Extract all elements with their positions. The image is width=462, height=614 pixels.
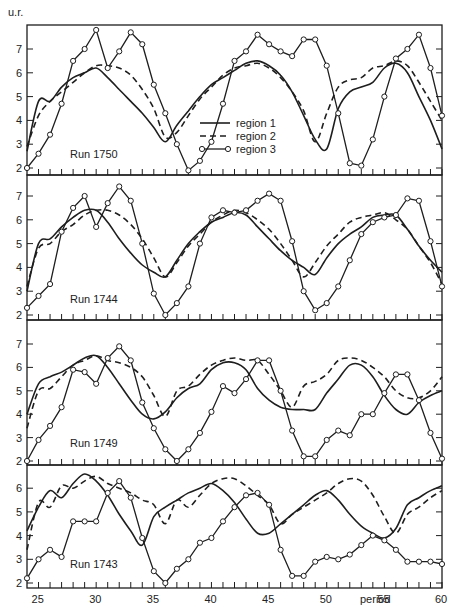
data-point-marker: [290, 573, 295, 578]
chart-panels: 234567Run 1750234567Run 1744234567Run 17…: [16, 25, 445, 589]
data-point-marker: [336, 284, 341, 289]
data-point-marker: [82, 193, 87, 198]
data-point-marker: [347, 161, 352, 166]
data-point-marker: [209, 215, 214, 220]
y-tick-label: 7: [16, 338, 22, 350]
data-point-marker: [301, 454, 306, 459]
data-point-marker: [382, 215, 387, 220]
data-point-marker: [140, 241, 145, 246]
data-point-marker: [59, 101, 64, 106]
data-point-marker: [220, 208, 225, 213]
data-point-marker: [301, 289, 306, 294]
data-point-marker: [220, 519, 225, 524]
data-point-marker: [197, 241, 202, 246]
data-point-marker: [428, 65, 433, 70]
data-point-marker: [36, 437, 41, 442]
run-label: Run 1744: [70, 293, 118, 305]
data-point-marker: [186, 168, 191, 173]
data-point-marker: [163, 111, 168, 116]
data-point-marker: [243, 493, 248, 498]
y-tick-label: 5: [16, 506, 22, 518]
y-tick-label: 2: [16, 455, 22, 467]
y-tick-label: 6: [16, 67, 22, 79]
legend-region-1: region 1: [236, 117, 276, 129]
data-point-marker: [290, 428, 295, 433]
y-unit-label: u.r.: [8, 6, 23, 18]
data-point-marker: [82, 369, 87, 374]
data-point-marker: [416, 559, 421, 564]
y-tick-label: 6: [16, 214, 22, 226]
data-point-marker: [94, 224, 99, 229]
data-point-marker: [243, 49, 248, 54]
data-point-marker: [140, 42, 145, 47]
data-point-marker: [266, 42, 271, 47]
legend-region-2: region 2: [236, 130, 276, 142]
data-point-marker: [59, 405, 64, 410]
data-point-marker: [163, 447, 168, 452]
data-point-marker: [439, 561, 444, 566]
series-region-1: [27, 209, 442, 291]
data-point-marker: [24, 305, 29, 310]
data-point-marker: [47, 547, 52, 552]
data-point-marker: [36, 557, 41, 562]
data-point-marker: [370, 412, 375, 417]
y-tick-label: 2: [16, 577, 22, 589]
y-tick-label: 2: [16, 309, 22, 321]
data-point-marker: [71, 205, 76, 210]
y-tick-label: 2: [16, 162, 22, 174]
data-point-marker: [36, 151, 41, 156]
data-point-marker: [382, 538, 387, 543]
data-point-marker: [174, 566, 179, 571]
data-point-marker: [117, 49, 122, 54]
data-point-marker: [382, 391, 387, 396]
data-point-marker: [47, 281, 52, 286]
data-point-marker: [24, 576, 29, 581]
x-tick-label: 25: [32, 593, 44, 605]
data-point-marker: [174, 301, 179, 306]
data-point-marker: [197, 158, 202, 163]
data-point-marker: [266, 358, 271, 363]
data-point-marker: [59, 229, 64, 234]
data-point-marker: [197, 540, 202, 545]
data-point-marker: [105, 355, 110, 360]
data-point-marker: [163, 580, 168, 585]
data-point-marker: [416, 198, 421, 203]
data-point-marker: [71, 58, 76, 63]
data-point-marker: [174, 142, 179, 147]
x-tick-label: 45: [262, 593, 274, 605]
data-point-marker: [324, 554, 329, 559]
y-tick-label: 3: [16, 138, 22, 150]
data-point-marker: [266, 502, 271, 507]
data-point-marker: [370, 220, 375, 225]
data-point-marker: [94, 27, 99, 32]
data-point-marker: [405, 46, 410, 51]
data-point-marker: [128, 198, 133, 203]
data-point-marker: [278, 547, 283, 552]
legend-region-3: region 3: [236, 143, 276, 155]
data-point-marker: [393, 56, 398, 61]
data-point-marker: [151, 569, 156, 574]
data-point-marker: [105, 201, 110, 206]
data-point-marker: [94, 381, 99, 386]
run-label: Run 1749: [70, 437, 118, 449]
y-tick-label: 5: [16, 91, 22, 103]
y-tick-label: 7: [16, 190, 22, 202]
series-region-1: [27, 355, 442, 419]
x-axis-label: period: [360, 593, 391, 605]
data-point-marker: [393, 372, 398, 377]
data-point-marker: [71, 367, 76, 372]
x-tick-label: 30: [89, 593, 101, 605]
data-point-marker: [47, 423, 52, 428]
data-point-marker: [290, 239, 295, 244]
data-point-marker: [359, 163, 364, 168]
data-point-marker: [278, 388, 283, 393]
x-tick-label: 40: [204, 593, 216, 605]
data-point-marker: [128, 358, 133, 363]
data-point-marker: [324, 63, 329, 68]
data-point-marker: [24, 458, 29, 463]
data-point-marker: [336, 428, 341, 433]
data-point-marker: [382, 94, 387, 99]
data-point-marker: [209, 409, 214, 414]
panel-run-1744: 234567Run 1744: [16, 175, 445, 321]
data-point-marker: [71, 519, 76, 524]
